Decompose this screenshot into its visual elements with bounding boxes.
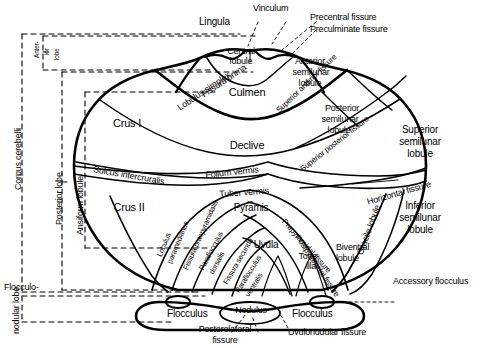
crus2-paramedianus-sep — [110, 196, 168, 292]
posterior-semilunar-border — [347, 70, 392, 110]
cerebellum-diagram: Vinculum Lingula Precentral fissure Prec… — [0, 0, 500, 348]
arc-r2 — [248, 202, 328, 290]
arc-l1 — [152, 190, 250, 290]
arc-l4 — [212, 228, 264, 294]
fissura-prima — [155, 70, 347, 119]
diagram-linework — [0, 0, 500, 348]
superior-posterior-fissure-line — [296, 76, 406, 148]
arc-r1 — [250, 190, 348, 290]
superior-anterior-fissure-line — [322, 92, 358, 126]
nodulus-shape — [220, 302, 280, 324]
lobulus-simplex-border — [100, 99, 400, 156]
arc-l3 — [192, 215, 256, 292]
folium-vermis-line — [74, 162, 426, 176]
